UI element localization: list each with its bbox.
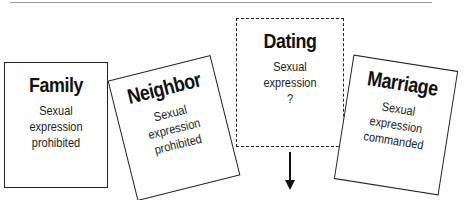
dating-line-1: Sexual [243, 59, 336, 75]
dating-description: Sexual expression ? [243, 59, 336, 107]
family-line-3: prohibited [11, 135, 101, 151]
neighbor-box: Neighbor Sexual expression prohibited [108, 55, 241, 200]
marriage-box: Marriage Sexual expression commanded [334, 54, 458, 195]
family-line-1: Sexual [11, 103, 101, 119]
top-divider [10, 2, 432, 3]
down-arrow-icon [285, 152, 295, 190]
family-description: Sexual expression prohibited [11, 103, 101, 151]
family-line-2: expression [11, 119, 101, 135]
dating-line-3: ? [243, 91, 336, 107]
dating-box: Dating Sexual expression ? [236, 18, 344, 147]
dating-line-2: expression [243, 75, 336, 91]
dating-title: Dating [245, 29, 335, 53]
family-box: Family Sexual expression prohibited [4, 62, 108, 188]
marriage-description: Sexual expression commanded [347, 94, 445, 156]
family-title: Family [13, 73, 100, 97]
